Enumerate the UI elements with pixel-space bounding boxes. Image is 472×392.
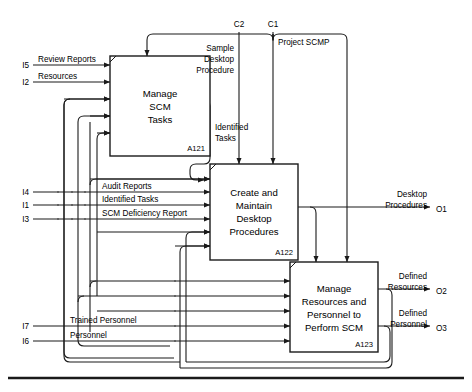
label-defined-personnel-1: Defined xyxy=(399,309,428,318)
box-a122-title-line-1: Create and xyxy=(230,187,277,198)
label-defined-resources-1: Defined xyxy=(399,272,428,281)
label-identified-tasks-internal-1: Identified xyxy=(215,123,249,132)
label-resources: Resources xyxy=(38,72,77,81)
input-port-i2: I2 xyxy=(22,78,29,87)
box-a122-title-line-3: Desktop xyxy=(236,213,271,224)
label-audit-reports: Audit Reports xyxy=(102,182,152,191)
box-a121-title-line-1: Manage xyxy=(143,88,178,99)
box-a121-node-label: A121 xyxy=(187,144,205,153)
input-port-i7: I7 xyxy=(22,322,29,331)
output-port-o2: O2 xyxy=(436,287,447,296)
bottom-bus-risers xyxy=(170,232,210,358)
label-identified-tasks-internal-2: Tasks xyxy=(215,134,236,143)
label-sample-desktop-procedure-1: Sample xyxy=(206,44,234,53)
label-project-scmp: Project SCMP xyxy=(278,38,330,47)
box-a122-title-line-2: Maintain xyxy=(236,200,272,211)
flow-desktop-procedures xyxy=(298,201,430,262)
input-port-i3: I3 xyxy=(22,215,29,224)
box-a121-title-line-2: SCM xyxy=(149,101,170,112)
label-identified-tasks-input: Identified Tasks xyxy=(102,195,158,204)
label-desktop-procedures-1: Desktop xyxy=(397,190,427,199)
input-port-i4: I4 xyxy=(22,188,29,197)
label-scm-deficiency-report: SCM Deficiency Report xyxy=(102,209,188,218)
output-port-o1: O1 xyxy=(436,205,447,214)
process-box-a122[interactable]: Create and Maintain Desktop Procedures A… xyxy=(210,164,298,260)
box-a122-title-line-4: Procedures xyxy=(229,226,278,237)
box-a122-node-label: A122 xyxy=(275,248,293,257)
label-defined-personnel-2: Personnel xyxy=(390,320,427,329)
box-a123-title-line-3: Personnel to xyxy=(307,309,361,320)
box-a123-title-line-1: Manage xyxy=(317,283,352,294)
box-a121-title-line-3: Tasks xyxy=(148,114,173,125)
input-port-i5: I5 xyxy=(22,61,29,70)
label-defined-resources-2: Resources xyxy=(388,283,427,292)
process-box-a121[interactable]: Manage SCM Tasks A121 xyxy=(110,56,210,156)
feedback-trunk-1 xyxy=(60,95,64,99)
output-port-o3: O3 xyxy=(436,324,447,333)
box-a123-title-line-2: Resources and xyxy=(302,296,367,307)
process-box-a123[interactable]: Manage Resources and Personnel to Perfor… xyxy=(290,262,378,352)
box-a123-title-line-4: Perform SCM xyxy=(305,322,363,333)
label-review-reports: Review Reports xyxy=(38,55,96,64)
diagram-canvas: Manage SCM Tasks A121 Create and Maintai… xyxy=(0,0,472,392)
idef0-diagram: Manage SCM Tasks A121 Create and Maintai… xyxy=(0,0,472,392)
box-a123-node-label: A123 xyxy=(355,340,373,349)
label-sample-desktop-procedure-2: Desktop xyxy=(204,55,234,64)
label-sample-desktop-procedure-3: Procedure xyxy=(196,66,234,75)
input-port-i6: I6 xyxy=(22,337,29,346)
flows-into-a123 xyxy=(33,266,290,341)
control-port-c1-label: C1 xyxy=(268,20,279,29)
label-desktop-procedures-2: Procedures xyxy=(385,201,427,210)
control-port-c2-label: C2 xyxy=(234,20,245,29)
input-port-i1: I1 xyxy=(22,201,29,210)
rail-bottoms xyxy=(64,296,178,358)
label-personnel: Personnel xyxy=(70,331,107,340)
crossing-rails xyxy=(180,232,210,368)
label-trained-personnel: Trained Personnel xyxy=(70,316,137,325)
